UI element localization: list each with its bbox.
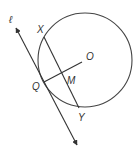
label-q: Q bbox=[32, 81, 40, 92]
segment-qo bbox=[44, 62, 82, 82]
label-l: ℓ bbox=[8, 14, 13, 25]
geometry-diagram: ℓ X O M Q Y bbox=[0, 0, 139, 152]
label-y: Y bbox=[78, 112, 86, 123]
label-x: X bbox=[36, 24, 44, 35]
label-o: O bbox=[86, 51, 94, 62]
circle bbox=[38, 13, 132, 107]
label-m: M bbox=[67, 75, 76, 86]
